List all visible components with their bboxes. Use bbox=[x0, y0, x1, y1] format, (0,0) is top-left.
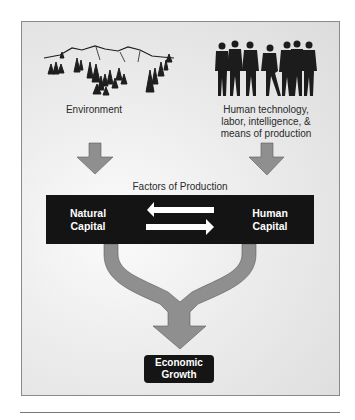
section-title: Factors of Production bbox=[100, 181, 260, 193]
environment-label: Environment bbox=[48, 104, 140, 116]
mountain-landscape-icon bbox=[44, 46, 174, 95]
economic-growth-line-1: Economic bbox=[144, 357, 214, 369]
arrow-right-icon bbox=[146, 219, 214, 235]
factors-of-production-bar: Natural Capital Human Capital bbox=[46, 195, 314, 244]
people-silhouettes-icon bbox=[215, 41, 317, 97]
economic-growth-box: Economic Growth bbox=[144, 355, 214, 383]
bottom-rule bbox=[20, 412, 340, 413]
economic-growth-line-2: Growth bbox=[144, 369, 214, 381]
arrow-left-icon bbox=[147, 202, 214, 217]
down-arrow-right-icon bbox=[249, 143, 284, 175]
human-resources-label: Human technology, labor, intelligence, &… bbox=[200, 104, 332, 140]
merge-arrow-icon bbox=[104, 244, 256, 349]
human-label-line-3: means of production bbox=[200, 128, 332, 140]
down-arrow-left-icon bbox=[77, 143, 113, 174]
human-capital-line-1: Human bbox=[240, 207, 300, 220]
human-capital-line-2: Capital bbox=[240, 220, 300, 233]
human-label-line-1: Human technology, bbox=[200, 104, 332, 116]
human-label-line-2: labor, intelligence, & bbox=[200, 116, 332, 128]
human-capital-label: Human Capital bbox=[240, 207, 300, 233]
